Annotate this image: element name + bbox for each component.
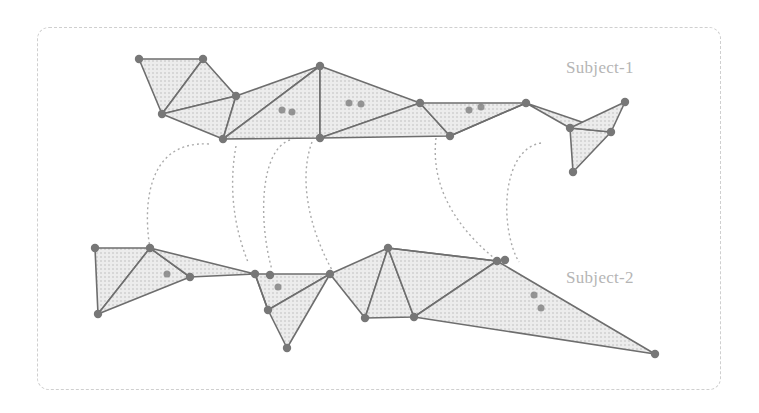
subject2-mesh-node	[651, 350, 659, 358]
subject1-mesh-node	[621, 98, 629, 106]
subject2-mesh-node	[326, 270, 334, 278]
subject1-feature-point	[466, 107, 473, 114]
subject2-mesh-node	[91, 244, 99, 252]
correspondence-connector	[147, 144, 209, 248]
subject2-mesh-node	[283, 344, 291, 352]
subject1-mesh-node	[569, 168, 577, 176]
subject1-mesh-node	[446, 132, 454, 140]
subject1-mesh-node	[566, 124, 574, 132]
subject-2-label: Subject-2	[566, 268, 634, 288]
correspondence-diagram	[0, 0, 759, 413]
subject1-feature-point	[478, 104, 485, 111]
subject1-feature-point	[279, 107, 286, 114]
subject1-mesh-node	[232, 92, 240, 100]
subject2-mesh-node	[94, 310, 102, 318]
subject1-mesh-node	[199, 55, 207, 63]
subject2-mesh-node	[266, 271, 274, 279]
subject1-mesh-triangle	[570, 102, 625, 132]
subject1-mesh-node	[607, 128, 615, 136]
subject1-mesh-node	[316, 62, 324, 70]
subject1-feature-point	[346, 100, 353, 107]
subject1-mesh-node	[158, 110, 166, 118]
subject1-mesh-node	[316, 134, 324, 142]
subject-1-label: Subject-1	[566, 58, 634, 78]
correspondence-connector	[264, 140, 290, 270]
subject1-mesh-node	[416, 99, 424, 107]
subject1-mesh-node	[522, 99, 530, 107]
subject2-mesh-node	[493, 257, 501, 265]
subject2-mesh-node	[410, 313, 418, 321]
subject2-feature-point	[538, 305, 545, 312]
correspondence-connector	[233, 146, 248, 262]
subject2-mesh-node	[501, 256, 509, 264]
correspondence-connector	[306, 142, 332, 270]
subject2-mesh-node	[264, 306, 272, 314]
correspondence-connector	[435, 138, 494, 258]
subject2-feature-point	[531, 292, 538, 299]
subject2-feature-point	[275, 284, 282, 291]
subject2-mesh-node	[186, 273, 194, 281]
subject1-mesh-node	[135, 55, 143, 63]
subject2-feature-point	[164, 271, 171, 278]
subject2-mesh-node	[361, 314, 369, 322]
subject2-mesh-node	[251, 270, 259, 278]
subject2-mesh-node	[146, 244, 154, 252]
subject1-feature-point	[358, 101, 365, 108]
subject2-mesh-node	[384, 244, 392, 252]
correspondence-connector	[507, 143, 541, 262]
subject1-mesh-node	[219, 135, 227, 143]
subject1-mesh-triangle	[570, 128, 611, 172]
subject1-feature-point	[289, 109, 296, 116]
